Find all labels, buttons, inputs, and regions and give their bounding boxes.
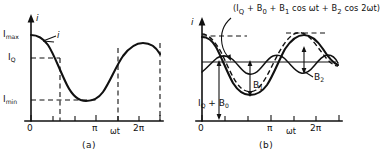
panel-b-annotation-iq-b0: IQ + B0 — [198, 99, 229, 109]
panel-a-curve-leader — [43, 36, 56, 42]
panel-b-caption: (b) — [259, 140, 273, 150]
panel-a-curve-label: i — [57, 31, 60, 40]
panel-a-ylabel-iq: IQ — [8, 53, 15, 63]
panel-a-x-axis — [25, 115, 163, 121]
panel-b-plot — [186, 0, 372, 155]
panel-a-x-axis-label: ωt — [110, 128, 120, 136]
panel-b-xlabel-twopi: 2π — [310, 124, 321, 133]
panel-b-annotation-b2: B2 — [314, 73, 324, 83]
panel-b-equation: (IQ + B0 + B1 cos ωt + B2 cos 2ωt) — [233, 3, 380, 16]
panel-a-y-axis-label: i — [36, 14, 39, 23]
panel-a-guides — [31, 43, 160, 121]
panel-a-xlabel-zero: 0 — [27, 124, 33, 133]
panel-b-b1-amplitude-arrow — [248, 60, 253, 97]
panel-b-xlabel-pi: π — [267, 124, 272, 133]
panel-b-xlabel-zero: 0 — [198, 124, 204, 133]
panel-a-xlabel-pi: π — [92, 124, 97, 133]
panel-a-curve-i — [31, 35, 160, 101]
panel-a-ylabel-imin: Imin — [3, 95, 17, 105]
panel-b-y-axis-label: i — [191, 18, 194, 27]
panel-a-distorted-current: Imax IQ Imin i i 0 π 2π ωt (a) — [0, 0, 186, 155]
panel-a-caption: (a) — [82, 140, 96, 150]
panel-b-x-axis-label: ωt — [286, 128, 296, 136]
panel-a-y-axis — [28, 14, 35, 121]
panel-a-ylabel-imax: Imax — [3, 30, 19, 40]
panel-b-harmonic-decomposition: (IQ + B0 + B1 cos ωt + B2 cos 2ωt) i B1 … — [186, 0, 372, 155]
panel-b-equation-leader — [221, 18, 231, 61]
panel-b-annotation-b1: B1 — [253, 81, 263, 91]
panel-a-xlabel-twopi: 2π — [133, 124, 144, 133]
panel-b-iq-b0-level-arrow — [217, 60, 222, 120]
